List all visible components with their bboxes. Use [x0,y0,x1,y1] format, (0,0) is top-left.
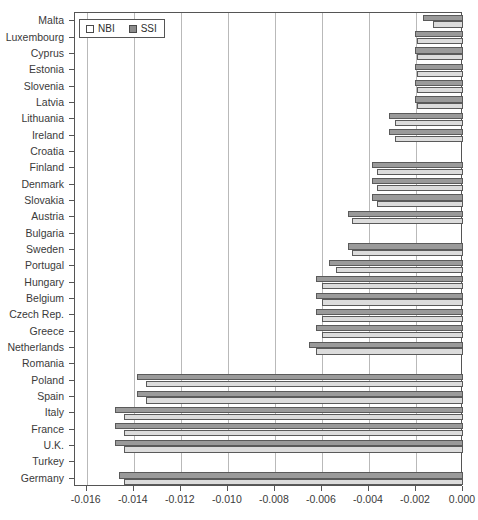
y-axis-label: Estonia [29,63,64,75]
y-axis-label: Poland [31,374,64,386]
bar-row [75,127,461,143]
plot-area [74,12,462,486]
bar-ssi [415,47,463,53]
bar-nbi [377,185,463,191]
legend-item-ssi: SSI [129,24,157,34]
bar-row [75,242,461,258]
bar-nbi [417,103,463,109]
x-axis-tick-label: -0.006 [306,493,336,505]
bar-row [75,193,461,209]
x-axis-tick [180,486,181,491]
x-axis-tick [462,486,463,491]
x-axis-tick [227,486,228,491]
y-axis-label: Germany [21,472,64,484]
x-axis-tick [415,486,416,491]
bar-ssi [423,15,463,21]
bar-ssi [389,129,463,135]
x-axis-tick-label: -0.004 [353,493,383,505]
bar-row [75,454,461,470]
y-axis-label: Netherlands [7,341,64,353]
y-axis-label: Greece [30,325,64,337]
bar-ssi [316,325,463,331]
legend-swatch-ssi-icon [129,25,137,33]
y-axis-label: Slovakia [24,194,64,206]
bar-row [75,144,461,160]
y-axis-label: U.K. [44,439,64,451]
bar-row [75,225,461,241]
y-axis-label: Cyprus [31,47,64,59]
bar-nbi [417,71,463,77]
bar-nbi [417,87,463,93]
bar-row [75,111,461,127]
y-axis-label: Hungary [24,276,64,288]
x-axis-tick-label: -0.008 [259,493,289,505]
x-axis-tick [133,486,134,491]
bar-row [75,389,461,405]
bar-row [75,405,461,421]
x-axis-tick-label: 0.000 [449,493,475,505]
x-axis-tick-label: -0.012 [165,493,195,505]
y-axis-label: Bulgaria [25,227,64,239]
y-axis-label: France [31,423,64,435]
bar-nbi [395,136,463,142]
legend-swatch-nbi-icon [86,25,94,33]
x-axis-tick [321,486,322,491]
y-axis: MaltaLuxembourgCyprusEstoniaSloveniaLatv… [0,12,70,486]
bar-ssi [309,342,463,348]
bar-row [75,291,461,307]
bar-row [75,373,461,389]
bar-ssi [372,178,463,184]
bar-ssi [115,423,463,429]
bar-ssi [115,407,463,413]
x-axis-tick [368,486,369,491]
bar-row [75,46,461,62]
y-axis-label: Turkey [32,455,64,467]
bar-nbi [316,348,463,354]
bar-row [75,78,461,94]
y-axis-label: Sweden [26,243,64,255]
bar-ssi [415,31,463,37]
bar-nbi [124,430,463,436]
legend-label-ssi: SSI [141,24,157,34]
bar-nbi [377,169,463,175]
legend-label-nbi: NBI [98,24,115,34]
x-axis-tick-label: -0.016 [71,493,101,505]
y-axis-label: Lithuania [21,112,64,124]
bar-ssi [372,162,463,168]
bar-nbi [433,21,463,27]
y-axis-label: Denmark [21,178,64,190]
y-axis-label: Latvia [36,96,64,108]
bar-row [75,275,461,291]
x-axis-tick [274,486,275,491]
bar-ssi [348,211,463,217]
x-axis-tick-label: -0.014 [118,493,148,505]
bar-nbi [322,283,463,289]
bar-row [75,438,461,454]
bar-nbi [336,267,463,273]
y-axis-label: Romania [22,357,64,369]
bar-nbi [322,299,463,305]
bar-row [75,307,461,323]
y-axis-label: Finland [30,161,64,173]
bar-nbi [124,414,463,420]
bar-nbi [124,446,463,452]
bar-ssi [316,309,463,315]
x-axis-tick-label: -0.010 [212,493,242,505]
bar-ssi [389,113,463,119]
bar-ssi [348,243,463,249]
bar-ssi [137,391,463,397]
legend: NBI SSI [79,19,165,38]
bar-ssi [119,472,463,478]
bar-nbi [124,479,463,485]
bar-ssi [415,96,463,102]
bar-nbi [352,218,463,224]
bar-row [75,422,461,438]
legend-item-nbi: NBI [86,24,115,34]
y-axis-label: Austria [31,210,64,222]
bar-ssi [316,293,463,299]
bar-nbi [417,38,463,44]
bar-nbi [146,397,463,403]
y-axis-label: Spain [37,390,64,402]
bar-nbi [322,332,463,338]
bar-nbi [395,120,463,126]
